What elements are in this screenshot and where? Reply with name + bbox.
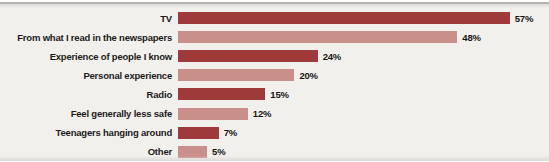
value-label: 57% <box>515 13 533 24</box>
bar-row: Experience of people I know24% <box>0 47 549 66</box>
value-label: 12% <box>253 108 271 119</box>
chart-rows: TV57%From what I read in the newspapers4… <box>0 9 549 162</box>
bar <box>178 108 248 120</box>
value-label: 48% <box>462 32 480 43</box>
category-label: TV <box>0 13 178 24</box>
bar <box>178 50 318 62</box>
value-label: 15% <box>270 89 288 100</box>
bar-row: Feel generally less safe12% <box>0 104 549 123</box>
bar-row: Personal experience20% <box>0 66 549 85</box>
bar-row: Teenagers hanging around7% <box>0 123 549 142</box>
category-label: Personal experience <box>0 70 178 81</box>
bar <box>178 88 265 100</box>
bar-chart: TV57%From what I read in the newspapers4… <box>0 0 549 161</box>
bar <box>178 31 457 43</box>
value-label: 7% <box>224 127 237 138</box>
category-label: Teenagers hanging around <box>0 127 178 138</box>
bottom-edge-divider <box>0 156 549 161</box>
value-label: 20% <box>299 70 317 81</box>
category-label: From what I read in the newspapers <box>0 32 178 43</box>
bar-row: From what I read in the newspapers48% <box>0 28 549 47</box>
bar <box>178 127 219 139</box>
top-edge-divider <box>0 0 549 8</box>
bar-row: Radio15% <box>0 85 549 104</box>
category-label: Experience of people I know <box>0 51 178 62</box>
value-label: 24% <box>323 51 341 62</box>
bar <box>178 12 510 24</box>
bar <box>178 69 294 81</box>
category-label: Feel generally less safe <box>0 108 178 119</box>
bar-row: TV57% <box>0 9 549 28</box>
category-label: Radio <box>0 89 178 100</box>
